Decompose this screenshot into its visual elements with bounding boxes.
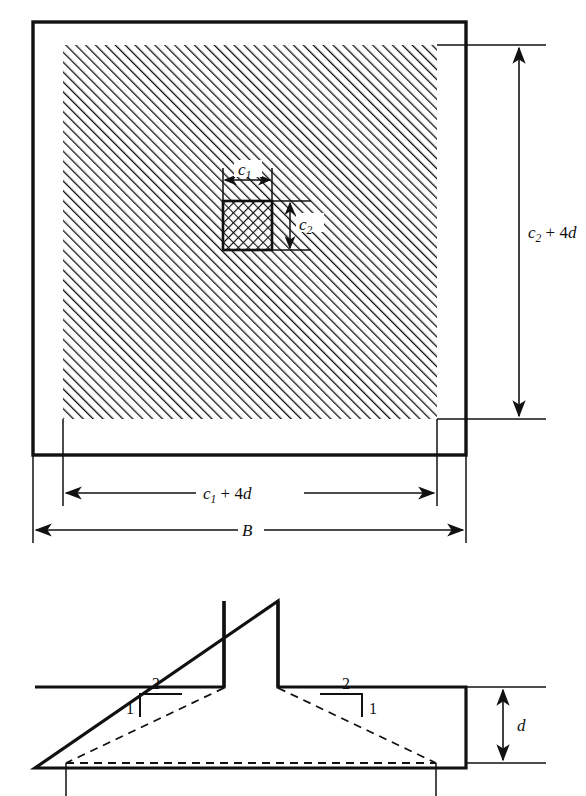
slab-outline	[35, 601, 466, 768]
failure-plane-right	[278, 688, 436, 763]
slope-left-rise-label: 1	[126, 700, 134, 717]
elevation-view-group: 2 1 2 1 d	[35, 601, 546, 796]
figure-root: c1 c2 c2 + 4d c1 + 4d B	[0, 0, 586, 796]
column-section	[223, 201, 272, 250]
slope-right-run-label: 2	[342, 675, 350, 692]
slope-right-rise-label: 1	[369, 700, 377, 717]
d-label: d	[517, 716, 526, 735]
c1-plus-4d-label: c1 + 4d	[203, 484, 252, 505]
c2-plus-4d-label: c2 + 4d	[528, 223, 577, 244]
slope-left-run-label: 2	[152, 675, 160, 692]
slope-marker-right	[320, 694, 362, 717]
diagram-canvas: c1 c2 c2 + 4d c1 + 4d B	[0, 0, 586, 796]
failure-plane-left	[66, 688, 224, 763]
B-label: B	[242, 521, 253, 540]
slope-marker-left	[140, 694, 182, 717]
plan-view-group: c1 c2 c2 + 4d c1 + 4d B	[33, 22, 577, 543]
